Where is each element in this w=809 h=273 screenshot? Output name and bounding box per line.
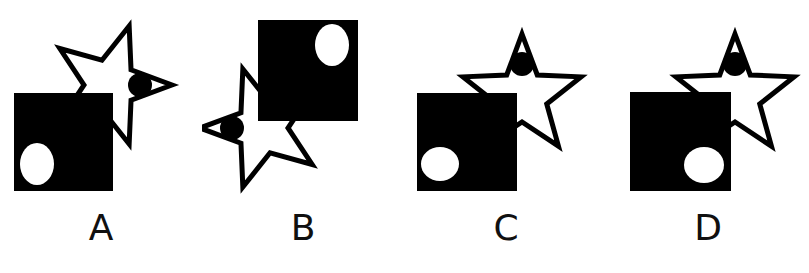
shape-group-d xyxy=(630,34,794,191)
white-circle-d xyxy=(684,147,724,183)
panel-a-graphic xyxy=(0,0,202,202)
figure-root: A B C xyxy=(0,0,809,273)
panel-label-c: C xyxy=(405,206,607,250)
shape-group-b xyxy=(202,20,358,187)
panel-d-graphic xyxy=(607,0,809,202)
shape-group-a xyxy=(14,26,172,191)
black-dot-a xyxy=(128,73,152,97)
panel-c[interactable]: C xyxy=(405,0,607,273)
panel-label-d: D xyxy=(607,206,809,250)
panel-b[interactable]: B xyxy=(202,0,404,273)
panel-d[interactable]: D xyxy=(607,0,809,273)
panel-label-a: A xyxy=(0,206,202,250)
panel-label-b: B xyxy=(202,206,404,250)
black-dot-d xyxy=(723,52,747,76)
white-circle-b xyxy=(315,24,349,66)
white-circle-c xyxy=(421,147,459,181)
panel-c-graphic xyxy=(405,0,607,202)
shape-group-c xyxy=(417,34,581,191)
panel-a[interactable]: A xyxy=(0,0,202,273)
black-dot-c xyxy=(510,52,534,76)
panel-b-graphic xyxy=(202,0,404,202)
white-circle-a xyxy=(20,143,54,185)
black-dot-b xyxy=(220,116,244,140)
